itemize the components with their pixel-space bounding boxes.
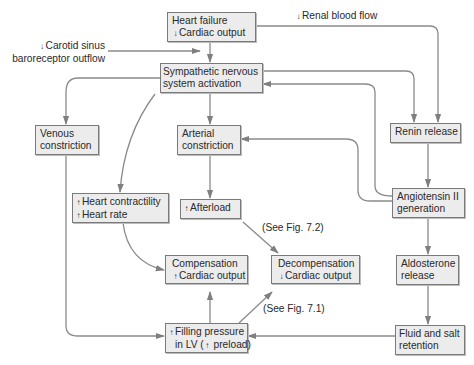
edge-symp-renin xyxy=(262,71,414,122)
up-arrow-icon: ↑ xyxy=(75,210,82,222)
down-arrow-icon: ↓ xyxy=(278,271,285,283)
down-arrow-icon: ↓ xyxy=(295,11,302,23)
edge-ang-arterial xyxy=(241,139,392,201)
node-sympathetic-activation: Sympathetic nervous system activation xyxy=(160,63,263,93)
node-arterial-constriction: Arterial constriction xyxy=(177,125,241,155)
node-angiotensin-generation: Angiotensin II generation xyxy=(392,188,465,218)
edge-hf-renin xyxy=(256,26,438,122)
carotid-label: ↓Carotid sinus baroreceptor outflow xyxy=(8,40,105,65)
node-renin-release: Renin release xyxy=(390,123,461,143)
node-filling-pressure: ↑Filling pressure in LV (↑ preload) xyxy=(165,323,248,353)
edge-contract-comp xyxy=(123,223,164,270)
edge-symp-contract xyxy=(120,94,155,192)
up-arrow-icon: ↑ xyxy=(172,271,179,283)
node-heart-contractility-rate: ↑Heart contractility ↑Heart rate xyxy=(72,193,169,223)
node-afterload: ↑Afterload xyxy=(180,199,241,219)
edge-ang-symp xyxy=(263,84,392,196)
up-arrow-icon: ↑ xyxy=(168,327,175,339)
down-arrow-icon: ↓ xyxy=(39,41,46,53)
node-decompensation: Decompensation ↓Cardiac output xyxy=(271,255,360,284)
up-arrow-icon: ↑ xyxy=(183,203,190,215)
up-arrow-icon: ↑ xyxy=(75,197,82,209)
see-fig-7-2-label: (See Fig. 7.2) xyxy=(262,222,324,234)
see-fig-7-1-label: (See Fig. 7.1) xyxy=(263,303,325,315)
node-compensation: Compensation ↑Cardiac output xyxy=(165,255,248,284)
node-fluid-salt-retention: Fluid and salt retention xyxy=(395,325,465,355)
node-aldosterone-release: Aldosterone release xyxy=(396,255,459,285)
up-arrow-icon: ↑ xyxy=(204,340,211,352)
edge-venous-filling xyxy=(66,155,164,336)
node-heart-failure: Heart failure ↓Cardiac output xyxy=(167,12,256,42)
edge-symp-venous xyxy=(66,78,160,124)
renal-blood-flow-label: ↓Renal blood flow xyxy=(295,10,377,23)
node-venous-constriction: Venous constriction xyxy=(35,125,99,155)
down-arrow-icon: ↓ xyxy=(172,28,179,40)
